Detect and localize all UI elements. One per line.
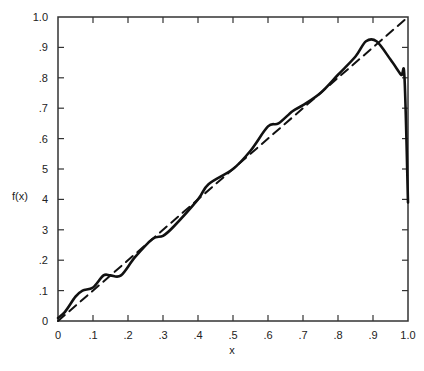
x-tick-label: 0 xyxy=(55,329,61,341)
x-tick-label: .6 xyxy=(263,329,272,341)
x-tick-label: .4 xyxy=(193,329,202,341)
y-tick-label: 3 xyxy=(42,224,48,236)
y-tick-label: .1 xyxy=(39,285,48,297)
x-tick-label: .2 xyxy=(123,329,132,341)
y-tick-label: 4 xyxy=(42,193,48,205)
line-chart: 0.1.2.3.4.5.6.7.8.91.0 0.1.2345.6.7.8.91… xyxy=(0,0,424,371)
x-tick-label: .7 xyxy=(298,329,307,341)
x-tick-label: .3 xyxy=(158,329,167,341)
y-tick-label: .2 xyxy=(39,254,48,266)
x-tick-label: .9 xyxy=(368,329,377,341)
x-axis-label: x xyxy=(229,344,235,356)
x-tick-label: .5 xyxy=(228,329,237,341)
y-tick-label: .9 xyxy=(39,41,48,53)
y-tick-label: .8 xyxy=(39,72,48,84)
y-tick-label: .7 xyxy=(39,102,48,114)
y-tick-label: .6 xyxy=(39,133,48,145)
y-tick-label: 5 xyxy=(42,163,48,175)
y-axis-ticks: 0.1.2345.6.7.8.91.0 xyxy=(33,11,408,327)
y-tick-label: 0 xyxy=(42,315,48,327)
x-tick-label: 1.0 xyxy=(400,329,415,341)
identity-line xyxy=(58,17,408,321)
y-axis-label: f(x) xyxy=(12,190,28,202)
x-tick-label: .8 xyxy=(333,329,342,341)
y-tick-label: 1.0 xyxy=(33,11,48,23)
x-axis-ticks: 0.1.2.3.4.5.6.7.8.91.0 xyxy=(55,17,416,341)
x-tick-label: .1 xyxy=(88,329,97,341)
series-layer xyxy=(58,17,408,321)
